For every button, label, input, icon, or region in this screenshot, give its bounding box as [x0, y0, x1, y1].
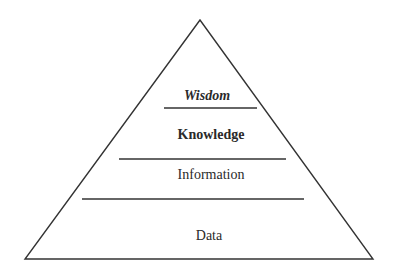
level-label-wisdom: Wisdom — [184, 88, 230, 103]
level-label-data: Data — [196, 228, 223, 243]
level-label-information: Information — [178, 167, 245, 182]
dikw-pyramid-diagram: Wisdom Knowledge Information Data — [0, 0, 395, 278]
level-label-knowledge: Knowledge — [178, 127, 245, 142]
